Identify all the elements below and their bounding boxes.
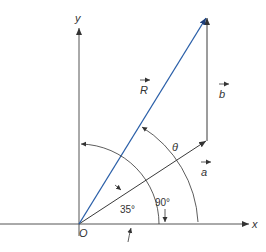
- angle-35-label: 35°: [120, 204, 135, 215]
- b-label: b: [219, 88, 225, 100]
- origin-label: O: [79, 227, 88, 239]
- angle-90-label: 90°: [155, 197, 170, 208]
- arc-35-tick: [128, 228, 131, 242]
- vector-R: [79, 18, 206, 224]
- R-label: R: [140, 84, 148, 96]
- x-axis-label: x: [251, 218, 258, 230]
- a-label: a: [201, 166, 207, 178]
- vector-diagram: y x O R b a θ 35° 90°: [0, 0, 266, 252]
- arc-35-arrow: [115, 185, 121, 190]
- y-axis-label: y: [74, 12, 82, 24]
- vector-a: [79, 141, 206, 224]
- theta-label: θ: [172, 141, 178, 153]
